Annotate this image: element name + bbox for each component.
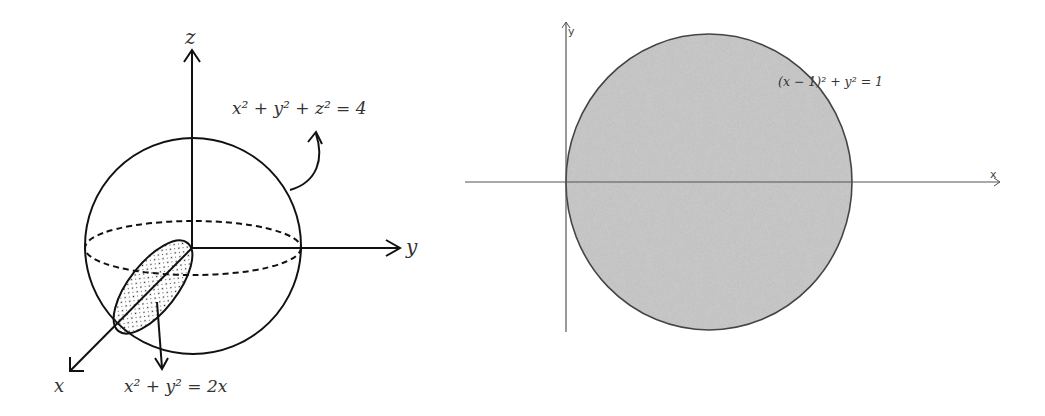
figure-canvas: z y x x² + y² + z² = 4 x² + y² = 2x x y … bbox=[0, 0, 1045, 416]
sphere-pointer-arrowhead-icon bbox=[308, 132, 322, 144]
y-axis-label: y bbox=[405, 235, 418, 259]
z-axis-label: z bbox=[184, 25, 196, 49]
x-axis-label: x bbox=[54, 375, 64, 396]
circle-equation-label: (x − 1)² + y² = 1 bbox=[778, 74, 883, 89]
right-y-axis-label: y bbox=[568, 25, 575, 38]
sphere-pointer-arrow bbox=[290, 134, 319, 190]
sphere-equation-label: x² + y² + z² = 4 bbox=[232, 98, 367, 118]
right-x-axis-label: x bbox=[990, 168, 997, 181]
cylinder-equation-label: x² + y² = 2x bbox=[124, 376, 228, 396]
right-diagram: x y (x − 1)² + y² = 1 bbox=[465, 22, 1000, 332]
left-diagram: z y x x² + y² + z² = 4 x² + y² = 2x bbox=[54, 25, 418, 396]
